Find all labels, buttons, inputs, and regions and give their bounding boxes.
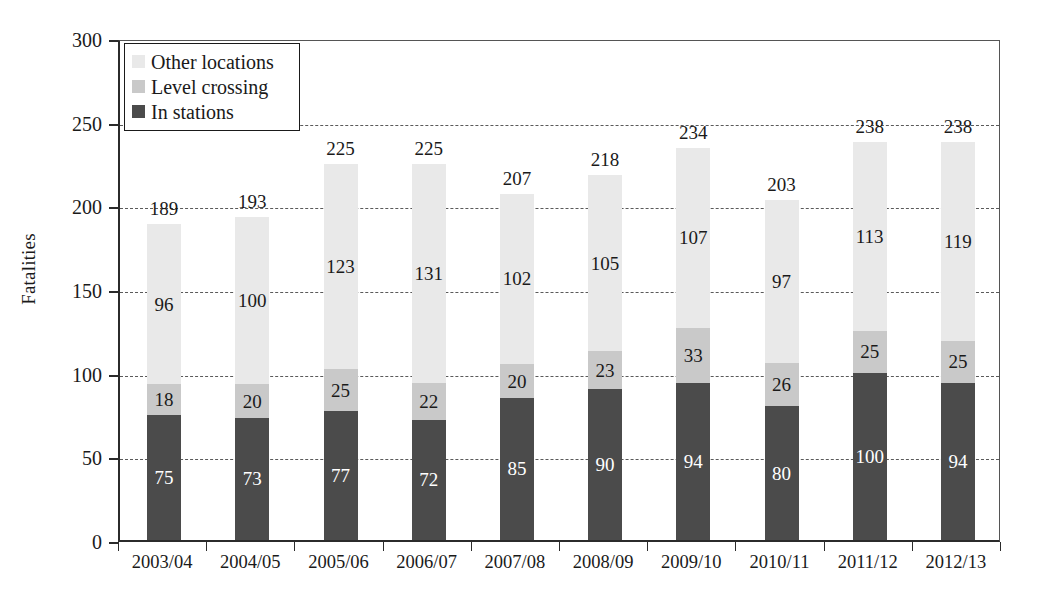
segment-value-label: 85: [507, 459, 526, 478]
legend-swatch-icon: [132, 80, 145, 93]
y-axis-tick-mark: [109, 458, 118, 460]
segment-value-label: 96: [155, 295, 174, 314]
segment-level-crossing: 20: [235, 384, 269, 417]
segment-value-label: 25: [331, 381, 350, 400]
segment-value-label: 94: [684, 452, 703, 471]
x-axis-tick-mark: [206, 542, 207, 551]
segment-level-crossing: 26: [765, 363, 799, 407]
segment-other-locations: 107: [676, 148, 710, 327]
segment-in-stations: 100: [853, 373, 887, 540]
segment-in-stations: 94: [676, 383, 710, 540]
segment-level-crossing: 18: [147, 384, 181, 414]
bar-total-label: 234: [648, 122, 738, 144]
legend-item-other-locations[interactable]: Other locations: [132, 49, 293, 74]
segment-value-label: 131: [414, 264, 443, 283]
y-axis-tick-label: 0: [40, 532, 102, 552]
segment-level-crossing: 33: [676, 328, 710, 383]
y-axis-tick-label: 50: [40, 448, 102, 468]
stacked-bar-chart: Fatalities 050100150200250300 9618751891…: [0, 0, 1038, 598]
segment-other-locations: 131: [412, 164, 446, 383]
y-axis-tick-mark: [109, 291, 118, 293]
x-axis-tick-mark: [559, 542, 560, 551]
bar-total-label: 218: [560, 149, 650, 171]
bar-total-label: 189: [119, 198, 209, 220]
legend-item-label: Level crossing: [151, 77, 268, 97]
segment-value-label: 100: [855, 447, 884, 466]
segment-value-label: 25: [948, 352, 967, 371]
x-axis-tick-mark: [647, 542, 648, 551]
x-axis-tick-mark: [824, 542, 825, 551]
segment-value-label: 80: [772, 464, 791, 483]
segment-value-label: 75: [155, 468, 174, 487]
x-axis-tick-mark: [118, 542, 119, 551]
segment-value-label: 100: [238, 291, 267, 310]
y-axis-tick-mark: [109, 542, 118, 544]
bar-2006-07: 1312272225: [412, 164, 446, 540]
bar-total-label: 193: [207, 191, 297, 213]
segment-value-label: 23: [596, 361, 615, 380]
x-axis-tick-mark: [471, 542, 472, 551]
segment-value-label: 90: [596, 455, 615, 474]
segment-value-label: 20: [243, 392, 262, 411]
segment-in-stations: 75: [147, 415, 181, 541]
segment-value-label: 25: [860, 342, 879, 361]
x-axis-tick-mark: [294, 542, 295, 551]
legend-item-in-stations[interactable]: In stations: [132, 99, 293, 124]
segment-in-stations: 77: [324, 411, 358, 540]
y-axis-tick-mark: [109, 375, 118, 377]
segment-other-locations: 96: [147, 224, 181, 385]
x-axis-tick-mark: [912, 542, 913, 551]
bar-2010-11: 972680203: [765, 200, 799, 540]
bar-total-label: 225: [384, 138, 474, 160]
bar-total-label: 203: [737, 174, 827, 196]
segment-value-label: 26: [772, 375, 791, 394]
legend-item-label: In stations: [151, 102, 234, 122]
segment-value-label: 105: [591, 254, 620, 273]
bar-total-label: 238: [913, 116, 1003, 138]
segment-value-label: 18: [155, 390, 174, 409]
segment-level-crossing: 23: [588, 351, 622, 389]
segment-value-label: 20: [507, 372, 526, 391]
segment-other-locations: 113: [853, 142, 887, 331]
segment-level-crossing: 22: [412, 383, 446, 420]
chart-legend: Other locationsLevel crossingIn stations: [124, 43, 300, 131]
segment-in-stations: 72: [412, 420, 446, 540]
segment-value-label: 113: [856, 227, 884, 246]
segment-level-crossing: 25: [853, 331, 887, 373]
segment-value-label: 123: [326, 257, 355, 276]
bar-2009-10: 1073394234: [676, 148, 710, 540]
legend-item-level-crossing[interactable]: Level crossing: [132, 74, 293, 99]
segment-value-label: 102: [503, 269, 532, 288]
segment-level-crossing: 20: [500, 364, 534, 397]
bar-2005-06: 1232577225: [324, 164, 358, 540]
x-axis-tick-mark: [383, 542, 384, 551]
y-axis-tick-mark: [109, 40, 118, 42]
segment-other-locations: 105: [588, 175, 622, 351]
segment-in-stations: 90: [588, 389, 622, 540]
segment-value-label: 22: [419, 392, 438, 411]
y-axis-tick-mark: [109, 124, 118, 126]
legend-swatch-icon: [132, 105, 145, 118]
segment-value-label: 77: [331, 466, 350, 485]
segment-other-locations: 100: [235, 217, 269, 384]
bar-total-label: 207: [472, 168, 562, 190]
segment-other-locations: 119: [941, 142, 975, 341]
segment-value-label: 72: [419, 470, 438, 489]
segment-level-crossing: 25: [324, 369, 358, 411]
y-axis-title: Fatalities: [18, 214, 40, 324]
segment-value-label: 33: [684, 346, 703, 365]
segment-other-locations: 123: [324, 164, 358, 370]
y-axis-tick-label: 100: [40, 365, 102, 385]
segment-value-label: 73: [243, 469, 262, 488]
bar-2011-12: 11325100238: [853, 142, 887, 540]
bar-2003-04: 961875189: [147, 224, 181, 540]
segment-in-stations: 85: [500, 398, 534, 540]
bar-2004-05: 1002073193: [235, 217, 269, 540]
segment-value-label: 107: [679, 228, 708, 247]
x-axis-tick-mark: [1000, 542, 1001, 551]
bar-2008-09: 1052390218: [588, 175, 622, 540]
bar-2007-08: 1022085207: [500, 194, 534, 540]
x-axis-tick-label-2012-13: 2012/13: [901, 552, 1011, 573]
y-axis-tick-label: 200: [40, 197, 102, 217]
y-axis-tick-label: 150: [40, 281, 102, 301]
